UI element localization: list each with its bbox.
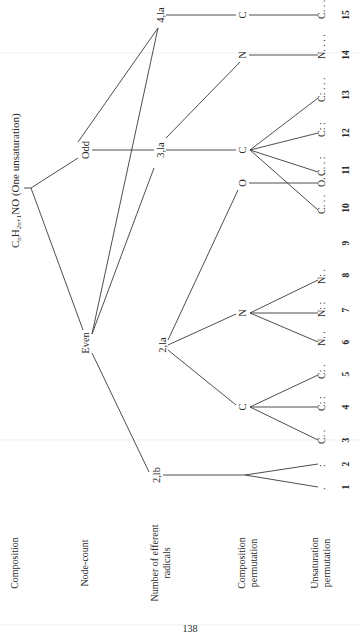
edge-leaf-6 <box>250 313 318 342</box>
edge-3la-n <box>166 62 240 138</box>
row-label-node-count: Node-count <box>79 539 90 586</box>
leaf-number-12: 12 <box>341 128 351 138</box>
leaf-1: . <box>316 488 327 491</box>
leaf-3: C. . <box>316 430 327 444</box>
leaf-number-2: 2 <box>341 461 351 466</box>
page-number: 138 <box>183 623 198 634</box>
edge-even-2lb <box>92 353 149 472</box>
edge-leaf-1 <box>245 475 318 487</box>
leaf-number-14: 14 <box>341 50 351 60</box>
row-labels: Composition Node-count Number of efferen… <box>9 524 332 601</box>
formula-title: CnH2n+1NO (One unsaturation) <box>9 113 23 248</box>
leaf-number-3: 3 <box>341 437 351 442</box>
node-comp-c-2la: C <box>237 403 248 410</box>
edge-leaf-8 <box>250 280 318 313</box>
edge-root-even <box>31 188 83 330</box>
node-comp-o-2la: O <box>237 179 248 187</box>
edge-2la-c <box>168 350 236 405</box>
tree-diagram: CnH2n+1NO (One unsaturation) Odd Even 4,… <box>0 0 360 635</box>
leaf-number-7: 7 <box>341 307 351 312</box>
leaf-12: C: : <box>316 122 327 137</box>
leaf-number-11: 11 <box>341 165 351 174</box>
edge-leaf-2 <box>245 464 318 475</box>
edge-even-4la <box>92 28 158 334</box>
edges <box>24 15 318 487</box>
leaf-number-9: 9 <box>341 240 351 245</box>
node-comp-c-4la: C <box>237 11 248 18</box>
row-label-composition-permutation-line2: permutation <box>248 539 259 587</box>
leaf-9: O. . <box>316 172 327 187</box>
leaf-5: C: . <box>316 365 327 379</box>
internal-nodes: Odd Even 4,la 3,la 2,la 2,lb C N C O N C <box>80 7 248 483</box>
row-label-composition: Composition <box>9 537 20 589</box>
leaf-number-1: 1 <box>341 484 351 489</box>
row-label-unsaturation-permutation-line1: Unsaturation <box>309 537 320 589</box>
leaf-14: N. . . . <box>316 34 327 59</box>
edge-leaf-13 <box>250 98 318 150</box>
leaf-number-6: 6 <box>341 339 351 344</box>
node-comp-n-3la: N <box>237 51 248 59</box>
node-radicals-2lb: 2,lb <box>151 467 162 483</box>
leaf-13: C: . . . <box>316 78 327 102</box>
edge-even-3la <box>92 168 154 334</box>
leaf-number-13: 13 <box>341 90 351 100</box>
node-radicals-4la: 4,la <box>155 7 166 23</box>
node-comp-n-2la: N <box>237 309 248 317</box>
row-label-efferent-radicals-line2: radicals <box>161 547 172 578</box>
leaf-7: N: : <box>316 302 327 317</box>
edge-leaf-3 <box>250 407 318 440</box>
leaf-15: C. . . <box>316 0 327 19</box>
leaf-number-15: 15 <box>341 10 351 20</box>
leaf-number-10: 10 <box>341 203 351 213</box>
node-radicals-3la: 3,la <box>155 142 166 158</box>
node-comp-c-3la: C <box>237 146 248 153</box>
leaf-labels: C. . . N. . . . C: . . . C: : C. . : C. … <box>316 0 327 490</box>
node-radicals-2la: 2,la <box>157 337 168 353</box>
edge-leaf-5 <box>250 375 318 407</box>
leaf-number-5: 5 <box>341 371 351 376</box>
edge-leaf-11 <box>250 150 318 172</box>
leaf-2: : <box>316 464 327 467</box>
node-odd: Odd <box>80 140 91 159</box>
edge-leaf-10 <box>250 150 318 210</box>
leaf-8: N: . <box>316 269 327 284</box>
node-even: Even <box>80 331 91 353</box>
tree-diagram-svg: CnH2n+1NO (One unsaturation) Odd Even 4,… <box>0 0 360 635</box>
row-label-composition-permutation-line1: Composition <box>236 537 247 589</box>
leaf-6: N. . <box>316 331 327 346</box>
edge-leaf-12 <box>250 133 318 150</box>
leaf-4: C: : <box>316 396 327 411</box>
row-label-efferent-radicals-line1: Number of efferent <box>149 524 160 601</box>
row-label-unsaturation-permutation-line2: permutation <box>321 539 332 587</box>
leaf-10: C. . . <box>316 195 327 214</box>
leaf-number-4: 4 <box>341 404 351 409</box>
edge-root-odd <box>31 158 78 188</box>
leaf-number-8: 8 <box>341 272 351 277</box>
leaf-numbers: 15 14 13 12 11 10 9 8 7 6 5 4 3 2 1 <box>341 10 351 489</box>
